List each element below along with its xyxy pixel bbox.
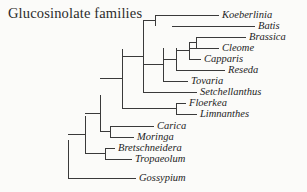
taxon-label-capparis: Capparis xyxy=(204,54,243,65)
taxon-label-carica: Carica xyxy=(157,121,186,132)
taxon-label-tropaeolum: Tropaeolum xyxy=(135,154,185,165)
taxon-label-moringa: Moringa xyxy=(137,132,174,143)
taxon-label-bretschneidera: Bretschneidera xyxy=(118,143,182,154)
glucosinolate-cladogram-figure: Glucosinolate families KoeberliniaBatisB… xyxy=(0,0,307,192)
taxon-label-koeberlinia: Koeberlinia xyxy=(222,10,272,21)
taxon-label-gossypium: Gossypium xyxy=(139,173,186,184)
taxon-label-limnanthes: Limnanthes xyxy=(200,109,249,120)
taxon-label-reseda: Reseda xyxy=(228,65,258,76)
taxon-label-setchellanthus: Setchellanthus xyxy=(200,87,261,98)
taxon-label-cleome: Cleome xyxy=(222,43,254,54)
taxon-label-tovaria: Tovaria xyxy=(191,76,223,87)
taxon-label-floerkea: Floerkea xyxy=(189,98,227,109)
taxon-label-brassica: Brassica xyxy=(249,32,286,43)
taxon-label-batis: Batis xyxy=(258,21,280,32)
